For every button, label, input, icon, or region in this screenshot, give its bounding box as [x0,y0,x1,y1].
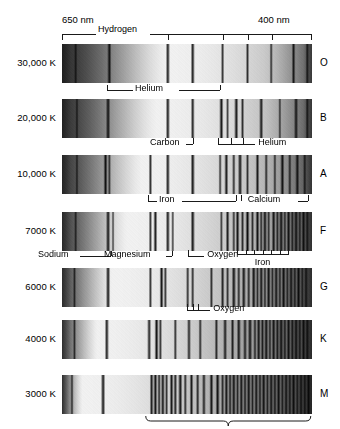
helium-o-tick-right [220,85,221,90]
iron-f-comb-tick-7 [288,250,289,255]
many-molecules-brace [0,414,340,429]
annotations-layer: HeliumCarbonHeliumIronCalciumSodiumMagne… [0,0,340,429]
iron-f-comb-tick-1 [237,250,238,255]
iron-f-comb-tick-3 [254,250,255,255]
carbon-tick [193,138,194,144]
carbon-leader-rule [186,144,193,145]
annotation-oxygen-f: Oxygen [207,249,238,259]
annotation-iron-a: Iron [159,194,175,204]
calcium-tick-right [308,195,309,201]
iron-a-tick-right [236,195,237,201]
iron-a-rule-right [182,201,236,202]
annotation-iron-f: Iron [237,257,288,267]
annotation-carbon: Carbon [150,137,180,147]
annotation-helium-o: Helium [135,83,163,93]
helium-b-bracket-rule [218,144,243,145]
annotation-sodium: Sodium [38,249,69,259]
calcium-tick-left [241,195,242,201]
oxygen-g-bracket-rule [187,310,198,311]
helium-o-rule-right [179,90,220,91]
helium-o-rule-left [107,90,133,91]
iron-f-comb-tick-5 [271,250,272,255]
iron-f-comb-tick-4 [263,250,264,255]
magnesium-tick [172,251,173,256]
helium-b-leader-rule [243,144,255,145]
iron-a-rule-left [148,201,157,202]
stellar-spectra-figure: 650 nm 400 nm Hydrogen 30,000 KO20,000 K… [0,0,340,429]
oxygen-f-leader-rule [188,256,204,257]
annotation-oxygen-g: Oxygen [213,303,244,313]
annotation-helium-b: Helium [258,137,286,147]
oxygen-g-leader-rule [198,310,210,311]
annotation-magnesium: Magnesium [104,249,151,259]
iron-f-comb-tick-2 [246,250,247,255]
annotation-calcium: Calcium [248,194,281,204]
magnesium-leader-rule [166,256,172,257]
iron-f-comb-tick-6 [280,250,281,255]
calcium-rule-right [298,201,308,202]
